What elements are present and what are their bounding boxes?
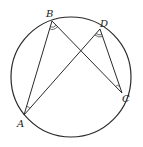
segment-ad <box>24 29 100 115</box>
label-b: B <box>45 8 53 19</box>
segment-bc <box>52 21 122 93</box>
angle-mark-d-outer <box>95 35 103 37</box>
label-d: D <box>99 18 108 29</box>
angle-mark-c <box>116 85 120 86</box>
angle-mark-d-inner <box>96 34 102 35</box>
label-c: C <box>122 93 130 104</box>
angle-mark-b-inner <box>50 25 56 27</box>
geometry-diagram: A B C D <box>0 0 143 147</box>
angle-mark-a <box>27 106 30 108</box>
label-a: A <box>16 118 24 129</box>
segment-dc <box>100 29 122 93</box>
circle <box>11 17 131 137</box>
